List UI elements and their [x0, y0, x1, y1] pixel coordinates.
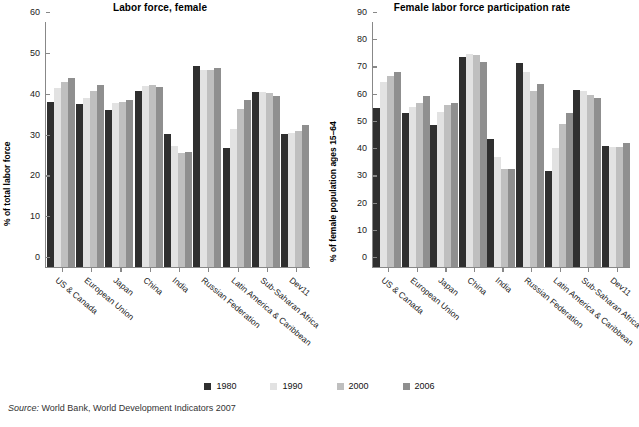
bar-group	[545, 22, 573, 267]
bar-group	[487, 22, 515, 267]
left-plot-area: US & CanadaEuropean UnionJapanChinaIndia…	[45, 22, 310, 268]
right-y-tick: 0	[362, 252, 373, 262]
left-y-tick-mark	[46, 216, 50, 217]
bar-2006	[537, 84, 544, 267]
bar-2000	[207, 70, 214, 267]
bar-1990	[494, 157, 501, 267]
x-tick-mark	[296, 267, 297, 272]
x-tick-mark	[267, 267, 268, 272]
left-y-tick-mark	[46, 135, 50, 136]
bar-group	[430, 22, 458, 267]
x-axis-label-4: India	[171, 275, 192, 295]
bar-group	[252, 22, 280, 267]
right-y-tick: 70	[357, 61, 373, 71]
bar-2006	[451, 103, 458, 267]
bar-2000	[444, 105, 451, 267]
bar-1980	[573, 90, 580, 267]
legend-label: 1980	[216, 381, 236, 391]
bar-1990	[552, 148, 559, 267]
bar-group	[164, 22, 192, 267]
bar-group	[402, 22, 430, 267]
chart-panel-labor-force-female: Labor force, female % of total labor for…	[0, 0, 320, 400]
bar-1990	[523, 72, 530, 267]
legend-item-2000: 2000	[337, 381, 369, 391]
legend-item-1990: 1990	[270, 381, 302, 391]
bar-1990	[171, 146, 178, 267]
bar-group	[135, 22, 163, 267]
bar-2006	[302, 125, 309, 268]
chart-legend: 1980199020002006	[0, 381, 639, 391]
bar-1980	[602, 146, 609, 267]
bar-group	[76, 22, 104, 267]
bar-group	[516, 22, 544, 267]
x-tick-mark	[62, 267, 63, 272]
bar-2006	[394, 72, 401, 267]
bar-1980	[76, 104, 83, 267]
legend-label: 1990	[282, 381, 302, 391]
bar-1990	[437, 112, 444, 267]
bar-1980	[373, 108, 380, 267]
legend-label: 2000	[349, 381, 369, 391]
legend-swatch-icon	[403, 383, 410, 390]
bar-2000	[416, 103, 423, 267]
right-y-tick: 90	[357, 7, 373, 17]
x-tick-mark	[208, 267, 209, 272]
left-y-tick: 40	[30, 89, 46, 99]
bar-2006	[214, 68, 221, 267]
left-y-tick: 30	[30, 130, 46, 140]
bar-2006	[156, 87, 163, 267]
bar-2000	[90, 91, 97, 267]
bar-1980	[47, 102, 54, 267]
legend-item-1980: 1980	[204, 381, 236, 391]
left-x-axis-ticks	[46, 267, 310, 273]
bar-group	[193, 22, 221, 267]
bar-1980	[487, 139, 494, 267]
right-y-tick-mark	[373, 175, 377, 176]
right-y-tick: 20	[357, 198, 373, 208]
bar-2006	[185, 152, 192, 267]
right-plot-area: US & CanadaEuropean UnionJapanChinaIndia…	[372, 22, 630, 268]
bar-1980	[252, 92, 259, 267]
x-tick-mark	[531, 267, 532, 272]
bar-2006	[244, 100, 251, 267]
bar-2006	[126, 100, 133, 267]
bar-1990	[200, 70, 207, 267]
bar-2000	[237, 109, 244, 267]
bar-group	[105, 22, 133, 267]
left-y-tick: 0	[35, 252, 46, 262]
x-tick-mark	[179, 267, 180, 272]
x-axis-label-3: China	[141, 275, 164, 297]
bar-1980	[281, 134, 288, 267]
bar-group	[373, 22, 401, 267]
bar-1990	[288, 133, 295, 267]
bar-1990	[409, 107, 416, 267]
right-y-tick-mark	[373, 94, 377, 95]
bar-2006	[566, 113, 573, 267]
bar-2000	[149, 85, 156, 267]
bar-2006	[480, 62, 487, 267]
right-x-axis-ticks	[373, 267, 630, 273]
right-y-tick-mark	[373, 66, 377, 67]
legend-swatch-icon	[204, 383, 211, 390]
bar-2000	[119, 102, 126, 267]
bar-1990	[112, 103, 119, 267]
left-y-axis-label: % of total labor force	[2, 96, 12, 226]
x-tick-mark	[617, 267, 618, 272]
left-y-tick-mark	[46, 53, 50, 54]
bar-1980	[430, 125, 437, 267]
bar-2000	[587, 95, 594, 267]
x-axis-label-1: European Union	[83, 275, 136, 322]
right-y-tick: 40	[357, 143, 373, 153]
right-y-tick-mark	[373, 203, 377, 204]
bar-2000	[616, 147, 623, 267]
x-tick-mark	[120, 267, 121, 272]
x-axis-label-2: Japan	[112, 275, 136, 298]
bar-group	[573, 22, 601, 267]
bar-1990	[580, 91, 587, 267]
bar-group	[459, 22, 487, 267]
right-y-tick: 60	[357, 89, 373, 99]
left-y-tick-mark	[46, 94, 50, 95]
legend-swatch-icon	[337, 383, 344, 390]
bar-1980	[105, 110, 112, 267]
bar-2006	[594, 98, 601, 267]
